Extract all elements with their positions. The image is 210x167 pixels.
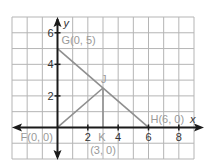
x-tick-label: 6 <box>145 131 151 143</box>
y-axis-label: y <box>63 17 71 29</box>
y-tick-label: 2 <box>47 90 53 102</box>
point-label-h: H(6, 0) <box>151 113 185 125</box>
point-sublabel-k: (3, 0) <box>90 144 116 156</box>
x-tick-label: 4 <box>115 131 121 143</box>
y-tick-label: 6 <box>47 27 53 39</box>
x-tick-label: 8 <box>176 131 182 143</box>
x-axis-label: x <box>189 113 196 125</box>
point-label-g: G(0, 5) <box>62 34 96 46</box>
segment-fj <box>58 88 104 127</box>
point-label-f: F(0, 0) <box>21 131 53 143</box>
y-tick-label: 4 <box>47 58 53 70</box>
point-label-k: K <box>98 131 106 143</box>
coordinate-graph: x y 2468246 F(0, 0)G(0, 5)H(6, 0)JK(3, 0… <box>0 0 210 167</box>
x-tick-label: 2 <box>85 131 91 143</box>
point-label-j: J <box>101 73 107 85</box>
